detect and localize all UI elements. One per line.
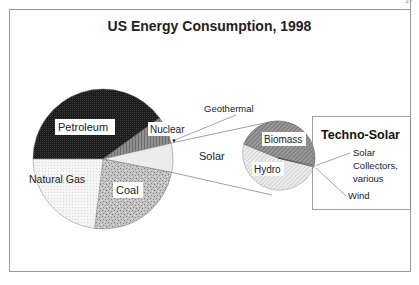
svg-text:Nuclear: Nuclear: [150, 124, 185, 135]
label-wind: Wind: [348, 190, 370, 201]
label-nuclear: Nuclear: [148, 122, 188, 136]
energy-chart: Petroleum Nuclear Coal Natural Gas Geoth…: [0, 0, 419, 285]
techno-solar-box: Techno-Solar Solar Collectors, various W…: [313, 117, 411, 210]
main-pie: [33, 89, 173, 229]
label-petroleum: Petroleum: [55, 119, 115, 135]
geothermal-marker: [173, 139, 176, 142]
solar-collectors-leader: [316, 153, 350, 166]
svg-text:Hydro: Hydro: [254, 164, 281, 175]
label-solar-collectors-3: various: [353, 173, 384, 184]
label-natural-gas: Natural Gas: [29, 173, 85, 185]
svg-text:Biomass: Biomass: [264, 134, 302, 145]
slice-natural-gas: [33, 159, 103, 229]
label-hydro: Hydro: [252, 162, 284, 176]
label-biomass: Biomass: [262, 132, 306, 146]
label-geothermal: Geothermal: [204, 103, 254, 114]
label-coal: Coal: [113, 182, 143, 198]
label-solar: Solar: [199, 150, 225, 162]
renewables-pie: [243, 121, 315, 190]
label-solar-collectors-2: Collectors,: [353, 160, 398, 171]
techno-solar-title: Techno-Solar: [321, 128, 400, 142]
label-solar-collectors-1: Solar: [353, 147, 375, 158]
svg-text:Petroleum: Petroleum: [58, 121, 108, 133]
svg-text:Coal: Coal: [116, 184, 139, 196]
wind-leader: [316, 168, 346, 196]
